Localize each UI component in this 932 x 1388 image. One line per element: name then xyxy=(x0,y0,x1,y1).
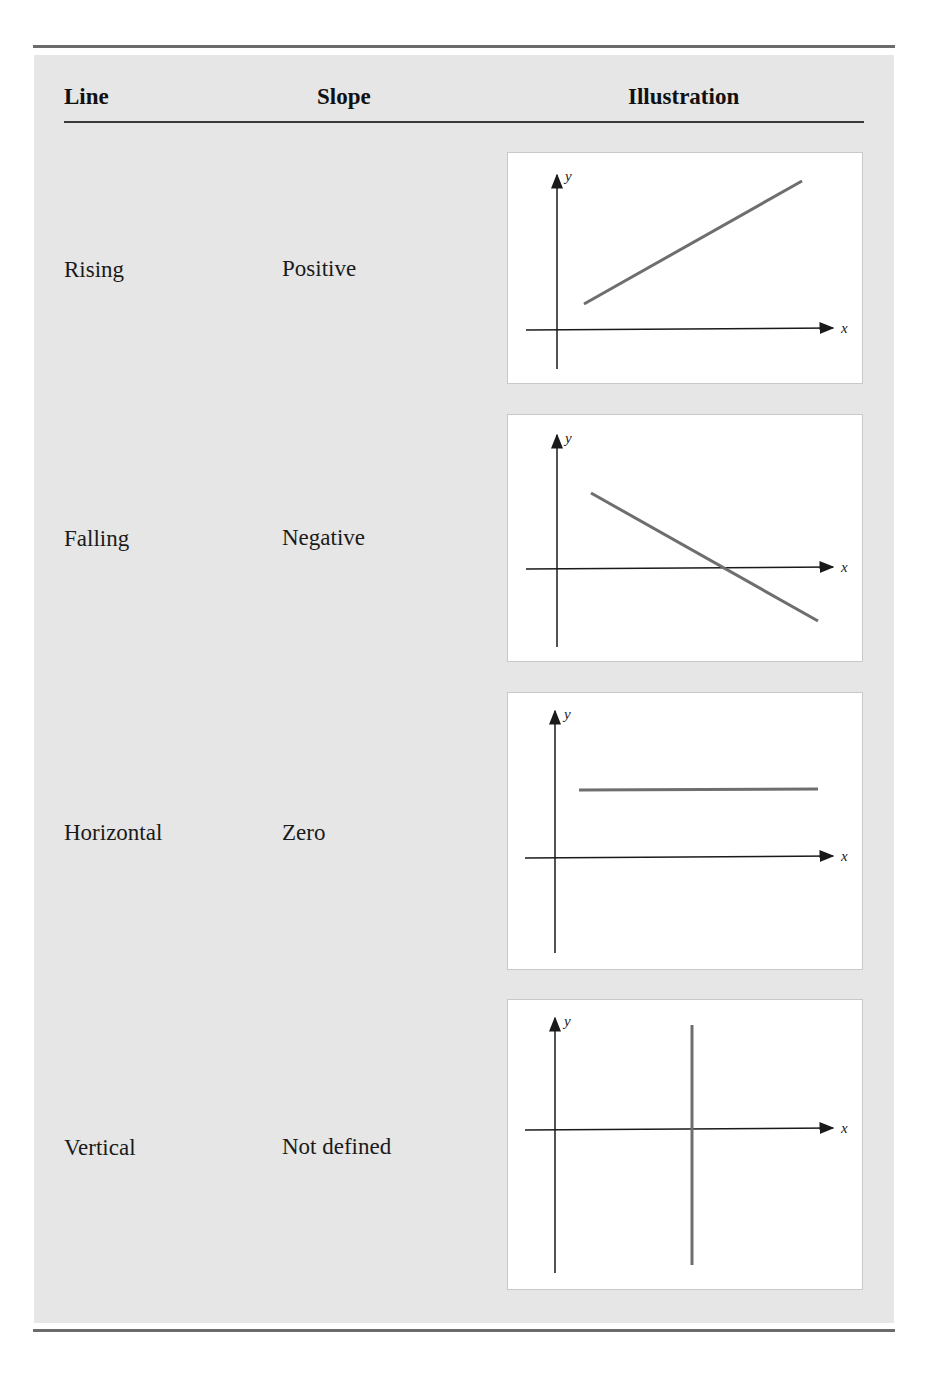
horizontal-graph-svg: y x xyxy=(508,693,864,971)
row-horizontal-slope: Zero xyxy=(282,820,325,846)
horizontal-line xyxy=(579,789,818,790)
bottom-rule xyxy=(33,1329,895,1332)
header-line: Line xyxy=(64,84,109,110)
y-axis-label: y xyxy=(562,1013,571,1029)
header-slope: Slope xyxy=(317,84,371,110)
horizontal-line-graph: y x xyxy=(507,692,863,970)
falling-graph-svg: y x xyxy=(508,415,864,663)
y-axis-label: y xyxy=(562,706,571,722)
rising-line xyxy=(584,181,802,304)
falling-line xyxy=(591,493,818,621)
row-horizontal-line: Horizontal xyxy=(64,820,162,846)
x-axis xyxy=(526,567,833,569)
row-vertical-line: Vertical xyxy=(64,1135,136,1161)
x-axis-label: x xyxy=(840,320,848,336)
header-illustration: Illustration xyxy=(628,84,739,110)
vertical-line-graph: y x xyxy=(507,999,863,1290)
row-rising-slope: Positive xyxy=(282,256,356,282)
falling-line-graph: y x xyxy=(507,414,863,662)
vertical-graph-svg: y x xyxy=(508,1000,864,1291)
header-rule xyxy=(64,121,864,123)
x-axis-label: x xyxy=(840,559,848,575)
row-vertical-slope: Not defined xyxy=(282,1134,391,1160)
y-axis-label: y xyxy=(563,168,572,184)
x-axis xyxy=(525,856,833,858)
rising-line-graph: y x xyxy=(507,152,863,384)
top-rule xyxy=(33,45,895,48)
rising-graph-svg: y x xyxy=(508,153,864,385)
row-rising-line: Rising xyxy=(64,257,124,283)
x-axis xyxy=(526,328,833,330)
row-falling-slope: Negative xyxy=(282,525,365,551)
y-axis-label: y xyxy=(563,430,572,446)
x-axis-label: x xyxy=(840,1120,848,1136)
x-axis-label: x xyxy=(840,848,848,864)
row-falling-line: Falling xyxy=(64,526,129,552)
x-axis xyxy=(525,1128,833,1130)
